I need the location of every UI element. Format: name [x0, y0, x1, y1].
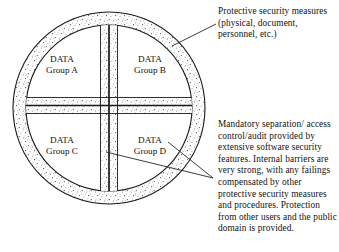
quadrant-label-d-line2: Group D	[122, 146, 178, 157]
quadrant-label-b: DATA Group B	[122, 54, 178, 76]
quadrant-label-d-line1: DATA	[122, 135, 178, 146]
annotation-protective-measures: Protective security measures (physical, …	[218, 6, 336, 41]
annotation-mandatory-separation: Mandatory separation/ access control/aud…	[218, 119, 338, 235]
quadrant-label-d: DATA Group D	[122, 135, 178, 157]
quadrant-label-a: DATA Group A	[34, 54, 90, 76]
quadrant-label-c-line1: DATA	[34, 135, 90, 146]
quadrant-label-b-line2: Group B	[122, 65, 178, 76]
quadrant-label-c-line2: Group C	[34, 146, 90, 157]
quadrant-label-b-line1: DATA	[122, 54, 178, 65]
quadrant-label-c: DATA Group C	[34, 135, 90, 157]
quadrant-label-a-line1: DATA	[34, 54, 90, 65]
quadrant-label-a-line2: Group A	[34, 65, 90, 76]
